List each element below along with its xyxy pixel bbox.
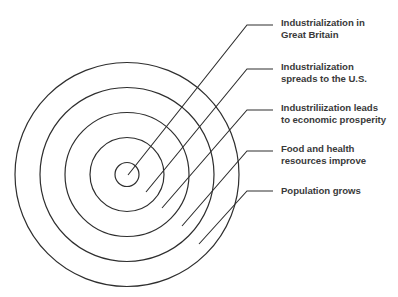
rings bbox=[15, 63, 239, 287]
leader-line-2 bbox=[146, 69, 273, 192]
label-line: to economic prosperity bbox=[281, 114, 386, 126]
label-population-grows: Population grows bbox=[281, 185, 361, 197]
ring-outermost bbox=[15, 63, 239, 287]
label-food-health-resources: Food and health resources improve bbox=[281, 143, 366, 167]
label-line: Great Britain bbox=[281, 29, 365, 41]
label-line: Population grows bbox=[281, 185, 361, 197]
label-line: Food and health bbox=[281, 143, 366, 155]
leader-line-1 bbox=[128, 25, 273, 175]
label-line: spreads to the U.S. bbox=[281, 73, 367, 85]
leader-lines bbox=[128, 25, 273, 244]
label-line: resources improve bbox=[281, 155, 366, 167]
ring-fourth bbox=[40, 88, 214, 262]
label-industrialization-spreads-us: Industrialization spreads to the U.S. bbox=[281, 61, 367, 85]
ring-second bbox=[90, 138, 164, 212]
label-line: Industriliization leads bbox=[281, 102, 386, 114]
label-economic-prosperity: Industriliization leads to economic pros… bbox=[281, 102, 386, 126]
leader-line-4 bbox=[182, 151, 273, 226]
label-line: Industrialization bbox=[281, 61, 367, 73]
label-line: Industrialization in bbox=[281, 17, 365, 29]
leader-line-3 bbox=[162, 110, 273, 208]
ring-third bbox=[65, 113, 189, 237]
label-industrialization-great-britain: Industrialization in Great Britain bbox=[281, 17, 365, 41]
